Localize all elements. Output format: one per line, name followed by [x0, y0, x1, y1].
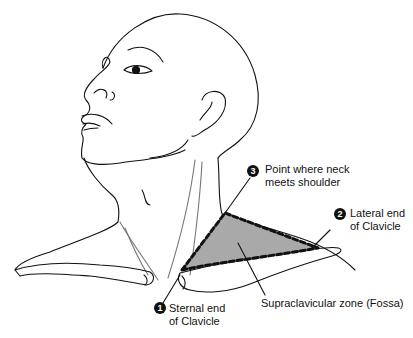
callout-2-line1: Lateral end: [350, 207, 405, 220]
left-clavicle-end: [144, 275, 147, 285]
pupil: [133, 67, 140, 74]
lips: [82, 114, 112, 130]
callout-1-line1: Sternal end: [169, 302, 225, 315]
callout-2-line2: of Clavicle: [350, 220, 405, 233]
callout-label-2: Lateral end of Clavicle: [350, 207, 405, 233]
callout-badge-1: 1: [154, 302, 166, 314]
callout-1-line2: of Clavicle: [169, 315, 225, 328]
callout-3-line1: Point where neck: [265, 163, 349, 176]
callout-label-1: Sternal end of Clavicle: [169, 302, 225, 328]
nostril: [94, 89, 114, 100]
leader-line-3: [225, 178, 250, 213]
ear: [192, 91, 226, 136]
callout-badge-3: 3: [247, 165, 259, 177]
callout-3-line2: meets shoulder: [265, 176, 349, 189]
neck-line-1: [142, 190, 150, 205]
callout-badge-2: 2: [334, 208, 346, 220]
zone-label: Supraclavicular zone (Fossa): [261, 297, 403, 310]
head-outline: [103, 14, 258, 158]
anatomy-drawing: [0, 0, 413, 338]
neck-front: [15, 158, 119, 270]
leader-line-1: [163, 275, 180, 303]
brow: [128, 47, 163, 62]
left-clavicle: [15, 263, 153, 285]
callout-label-3: Point where neck meets shoulder: [265, 163, 349, 189]
leader-line-2: [310, 230, 330, 250]
